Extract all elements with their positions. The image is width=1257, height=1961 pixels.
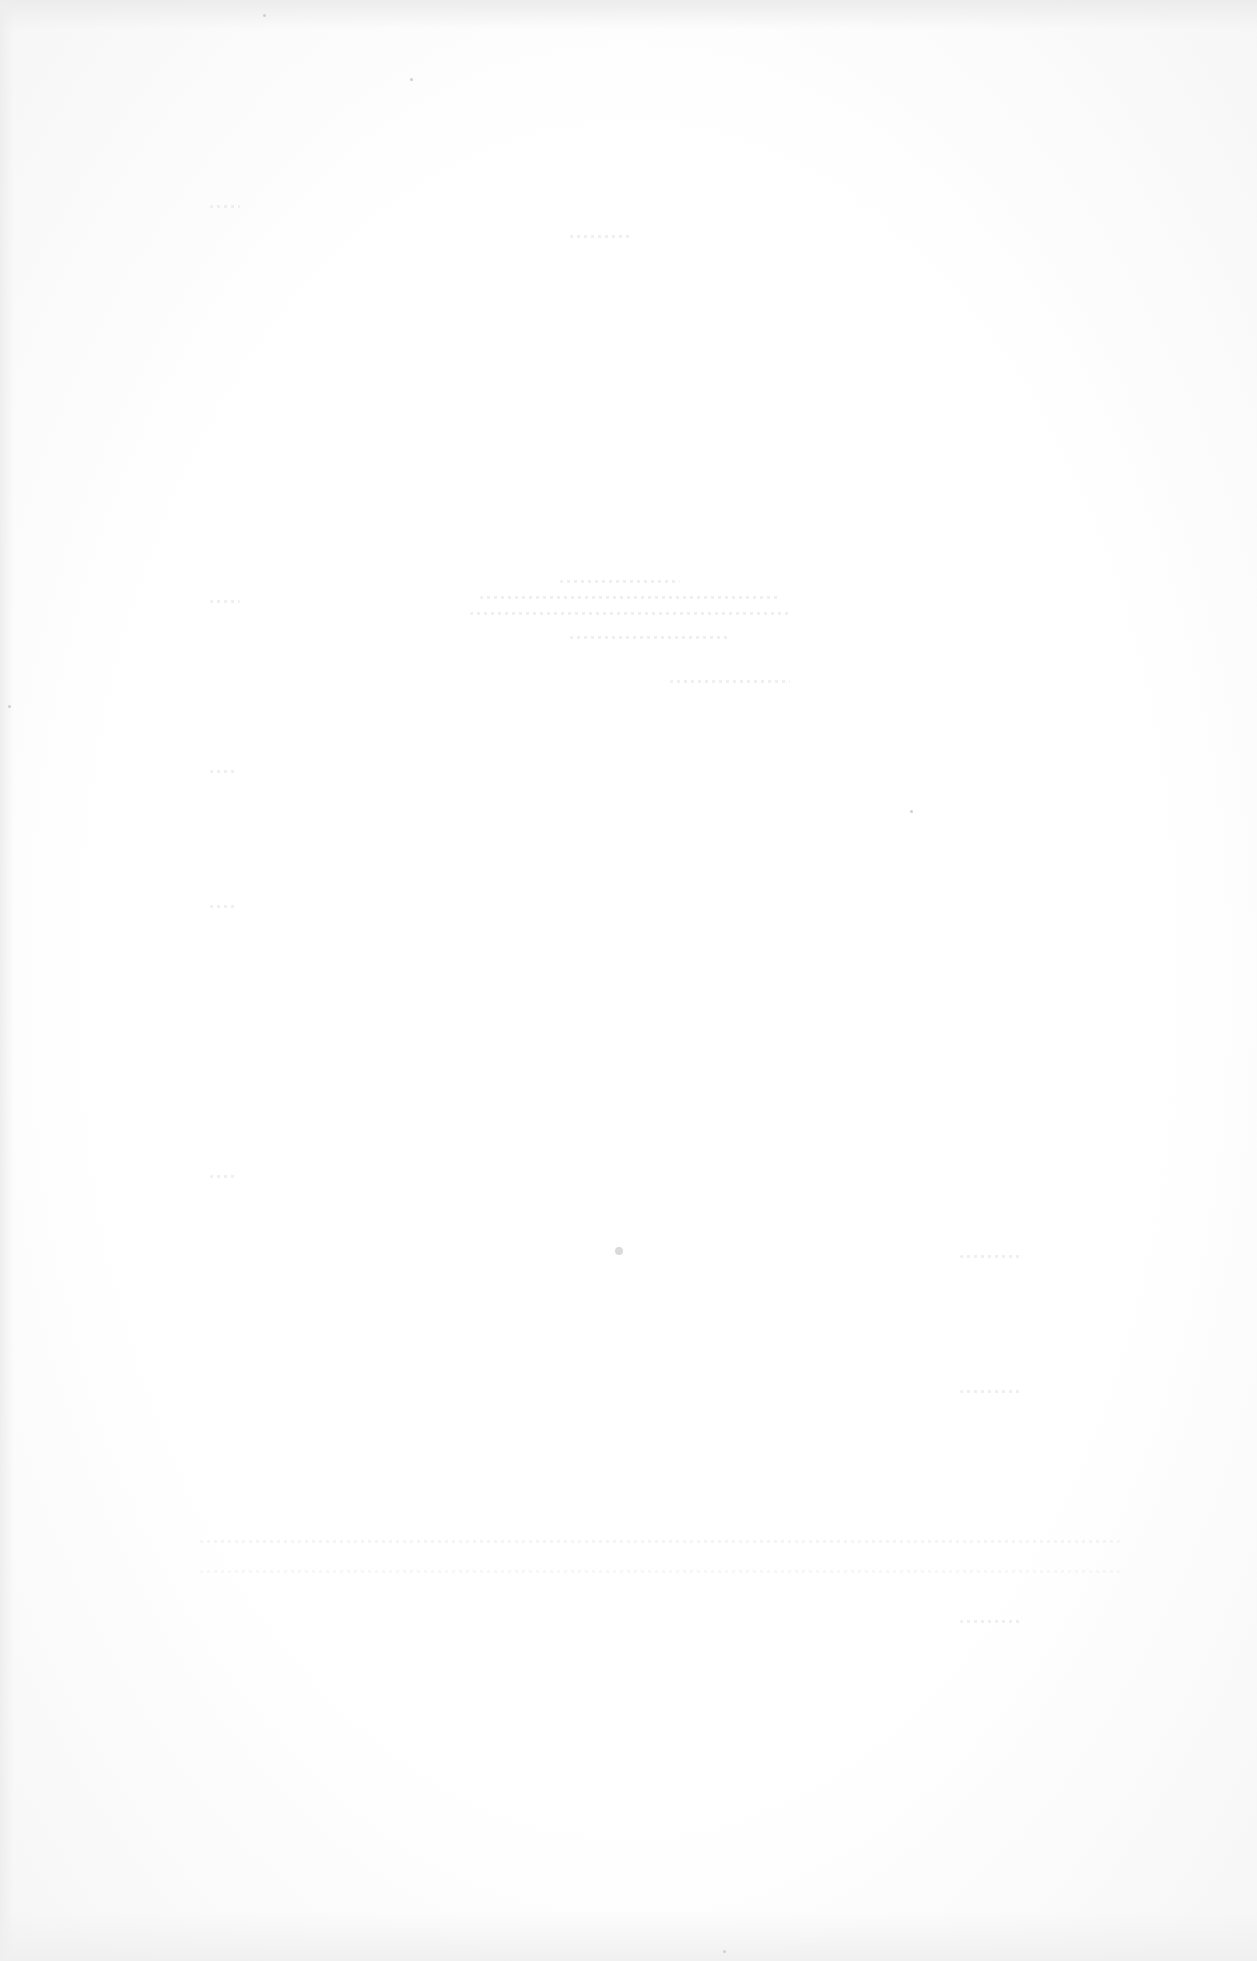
bleed-through-trace bbox=[210, 905, 235, 908]
page-bottom-edge-shadow bbox=[0, 1911, 1257, 1961]
bleed-through-trace bbox=[560, 580, 680, 583]
bleed-through-trace bbox=[200, 1570, 1120, 1573]
bleed-through-trace bbox=[480, 596, 780, 599]
scanned-page bbox=[0, 0, 1257, 1961]
bleed-through-trace bbox=[960, 1620, 1020, 1623]
scan-speck bbox=[910, 810, 913, 813]
bleed-through-trace bbox=[960, 1390, 1020, 1393]
scan-speck bbox=[410, 78, 413, 81]
bleed-through-trace bbox=[210, 600, 240, 603]
bleed-through-trace bbox=[670, 680, 790, 683]
bleed-through-trace bbox=[210, 770, 235, 773]
bleed-through-trace bbox=[960, 1255, 1020, 1258]
page-top-edge-shadow bbox=[0, 0, 1257, 30]
bleed-through-trace bbox=[210, 205, 240, 208]
scan-speck bbox=[263, 14, 266, 17]
bleed-through-trace bbox=[570, 235, 630, 238]
bleed-through-trace bbox=[200, 1540, 1120, 1543]
scan-speck bbox=[615, 1247, 623, 1255]
bleed-through-trace bbox=[210, 1175, 235, 1178]
bleed-through-trace bbox=[470, 612, 790, 615]
scan-speck bbox=[8, 705, 11, 708]
page-left-edge-shadow bbox=[0, 0, 14, 1961]
bleed-through-trace bbox=[570, 636, 730, 639]
scan-speck bbox=[723, 1950, 726, 1953]
